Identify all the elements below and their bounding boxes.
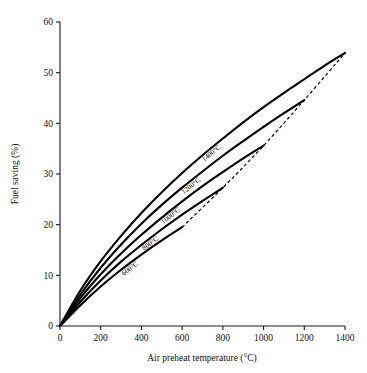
x-axis-title: Air preheat temperature (°C) <box>147 353 257 364</box>
x-tick-label: 1000 <box>254 333 273 343</box>
x-axis: 0200400600800100012001400 Air preheat te… <box>58 326 355 364</box>
y-tick-group: 0102030405060 <box>44 17 61 331</box>
y-axis: 0102030405060 Fuel saving (%) <box>10 17 60 331</box>
series-curve <box>60 146 264 326</box>
y-tick-label: 0 <box>48 321 53 331</box>
y-axis-title: Fuel saving (%) <box>10 144 21 205</box>
x-tick-label: 1400 <box>336 333 355 343</box>
series-label-1200C: 1200°C <box>180 176 202 196</box>
x-tick-label: 600 <box>175 333 190 343</box>
y-tick-label: 60 <box>44 17 54 27</box>
y-tick-label: 40 <box>44 119 54 129</box>
chart-svg: 0102030405060 Fuel saving (%) 0200400600… <box>0 0 367 373</box>
series-label-600C: 600°C <box>120 260 140 278</box>
y-tick-label: 50 <box>44 68 54 78</box>
y-tick-label: 30 <box>44 169 54 179</box>
y-tick-label: 10 <box>44 271 54 281</box>
x-tick-group: 0200400600800100012001400 <box>58 326 355 343</box>
series-curve <box>60 188 223 326</box>
series-label-group: 1400°C1200°C1000°C800°C600°C <box>120 143 222 277</box>
fuel-saving-chart: 0102030405060 Fuel saving (%) 0200400600… <box>0 0 367 373</box>
x-tick-label: 0 <box>58 333 63 343</box>
series-group <box>60 53 345 326</box>
x-tick-label: 800 <box>216 333 231 343</box>
y-tick-label: 20 <box>44 220 54 230</box>
x-tick-label: 1200 <box>295 333 314 343</box>
envelope-curve <box>182 53 345 227</box>
series-label-1400C: 1400°C <box>200 143 222 163</box>
series-curve <box>60 227 182 326</box>
x-tick-label: 200 <box>94 333 109 343</box>
series-curve <box>60 100 304 326</box>
x-tick-label: 400 <box>134 333 149 343</box>
